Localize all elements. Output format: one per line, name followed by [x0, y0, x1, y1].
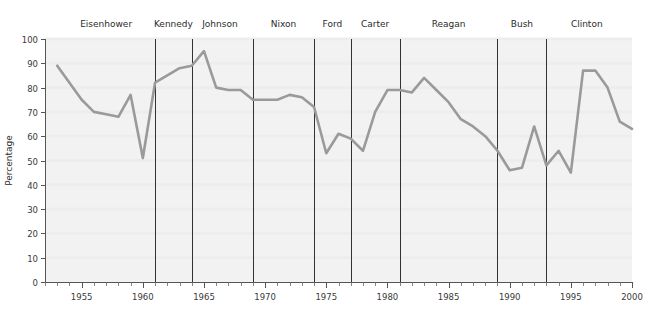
x-tick-label: 1995	[560, 292, 582, 302]
y-tick-label: 10	[27, 254, 38, 264]
chart-container: 0102030405060708090100 19551960196519701…	[0, 0, 645, 310]
gridline-band	[45, 183, 632, 186]
x-tick-label: 1960	[132, 292, 154, 302]
x-tick-label: 2000	[621, 292, 643, 302]
y-axis-ticks: 0102030405060708090100	[22, 35, 45, 288]
x-tick-label: 1985	[438, 292, 460, 302]
president-label: Ford	[323, 19, 343, 29]
y-tick-label: 30	[27, 205, 38, 215]
gridline-band	[45, 38, 632, 41]
gridline-band	[45, 232, 632, 235]
president-label: Bush	[511, 19, 533, 29]
percentage-line-chart: 0102030405060708090100 19551960196519701…	[0, 0, 645, 310]
president-label: Johnson	[201, 19, 237, 29]
president-label: Reagan	[432, 19, 466, 29]
y-tick-label: 50	[27, 157, 38, 167]
y-tick-label: 80	[27, 84, 38, 94]
y-axis-title-layer: Percentage	[4, 135, 14, 186]
x-tick-label: 1970	[254, 292, 276, 302]
president-labels: EisenhowerKennedyJohnsonNixonFordCarterR…	[80, 19, 602, 29]
y-tick-label: 40	[27, 181, 38, 191]
y-tick-label: 0	[33, 278, 38, 288]
y-tick-label: 20	[27, 229, 38, 239]
x-tick-label: 1980	[377, 292, 399, 302]
y-axis-title: Percentage	[4, 135, 14, 186]
president-label: Carter	[361, 19, 390, 29]
y-tick-label: 70	[27, 108, 38, 118]
gridline-band	[45, 62, 632, 65]
x-tick-label: 1965	[193, 292, 215, 302]
president-label: Nixon	[271, 19, 297, 29]
y-tick-label: 100	[22, 35, 38, 45]
x-tick-label: 1990	[499, 292, 521, 302]
president-label: Clinton	[571, 19, 603, 29]
gridline-band	[45, 256, 632, 259]
y-tick-label: 60	[27, 132, 38, 142]
gridline-band	[45, 208, 632, 211]
x-axis-ticks: 1955196019651970197519801985199019952000	[46, 282, 643, 302]
y-tick-label: 90	[27, 59, 38, 69]
president-label: Kennedy	[154, 19, 194, 29]
gridline-band	[45, 86, 632, 89]
x-tick-label: 1955	[71, 292, 93, 302]
president-label: Eisenhower	[80, 19, 132, 29]
x-tick-label: 1975	[315, 292, 337, 302]
